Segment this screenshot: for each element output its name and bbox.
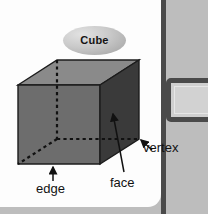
cube-front-face — [18, 85, 100, 164]
cube-svg — [0, 0, 208, 214]
label-edge: edge — [36, 182, 65, 195]
label-face: face — [110, 176, 135, 189]
figure-root: Cube — [0, 0, 208, 214]
cube-illustration — [0, 0, 208, 214]
label-vertex: vertex — [143, 141, 178, 154]
